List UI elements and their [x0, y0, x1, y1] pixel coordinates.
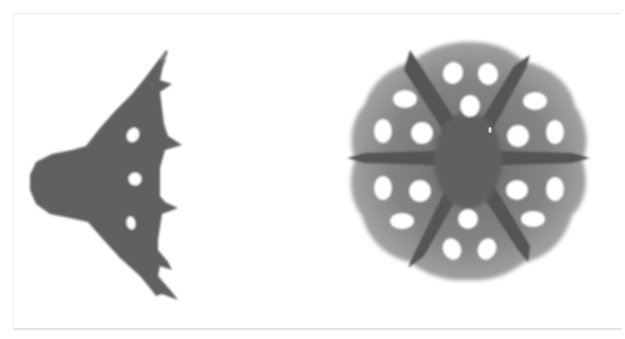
left-hole-2 [129, 173, 142, 186]
hole [507, 125, 529, 147]
left-structure [30, 50, 182, 300]
hole [374, 176, 392, 200]
hole [409, 180, 431, 202]
hole [521, 211, 545, 227]
left-structure-body [30, 58, 182, 300]
rosette-center [434, 112, 502, 208]
hole [523, 92, 547, 110]
hole [393, 90, 417, 108]
hole [460, 95, 480, 117]
hole [506, 180, 528, 200]
hole [546, 120, 564, 144]
hole [546, 177, 564, 201]
hole [390, 213, 414, 229]
hole [411, 122, 433, 144]
hole [458, 209, 478, 229]
figure-canvas [0, 0, 625, 339]
hole [374, 119, 392, 143]
rosette-center-pinhole [489, 127, 492, 133]
right-structure [347, 42, 590, 280]
